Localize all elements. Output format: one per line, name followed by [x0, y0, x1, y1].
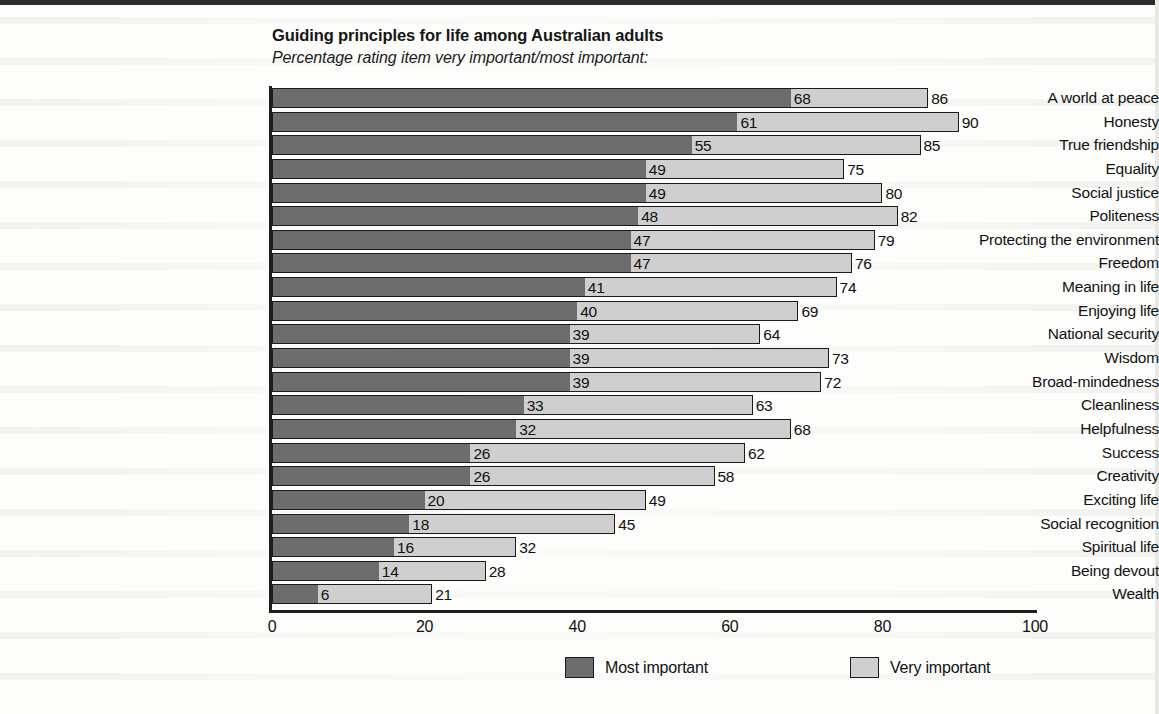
bar-value-total: 80 — [885, 184, 902, 203]
bar-value-most-important: 6 — [321, 585, 329, 604]
bar-value-most-important: 49 — [649, 184, 666, 203]
stacked-bar[interactable]: 4980 — [272, 183, 1035, 203]
bar-segment-most-important[interactable] — [272, 324, 570, 344]
bar-segment-most-important[interactable] — [272, 419, 516, 439]
bar-segment-most-important[interactable] — [272, 490, 425, 510]
bar-segment-most-important[interactable] — [272, 466, 470, 486]
chart-row: Creativity2658 — [0, 466, 1159, 490]
stacked-bar[interactable]: 3363 — [272, 395, 1035, 415]
bar-segment-most-important[interactable] — [272, 159, 646, 179]
bar-segment-most-important[interactable] — [272, 584, 318, 604]
stacked-bar[interactable]: 1428 — [272, 561, 1035, 581]
stacked-bar[interactable]: 4776 — [272, 253, 1035, 273]
legend-label: Most important — [605, 659, 708, 677]
bar-segment-most-important[interactable] — [272, 301, 577, 321]
bar-value-total: 86 — [931, 89, 948, 108]
bar-value-total: 28 — [489, 562, 506, 581]
stacked-bar[interactable]: 4174 — [272, 277, 1035, 297]
bar-value-most-important: 68 — [794, 89, 811, 108]
stacked-bar[interactable]: 6190 — [272, 112, 1035, 132]
stacked-bar[interactable]: 621 — [272, 584, 1035, 604]
chart-row: Meaning in life4174 — [0, 277, 1159, 301]
x-axis-tick-label: 0 — [268, 618, 277, 636]
stacked-bar[interactable]: 3268 — [272, 419, 1035, 439]
stacked-bar[interactable]: 4975 — [272, 159, 1035, 179]
bar-segment-most-important[interactable] — [272, 88, 791, 108]
chart-row: A world at peace6886 — [0, 88, 1159, 112]
bar-value-total: 73 — [832, 349, 849, 368]
bar-value-total: 76 — [855, 254, 872, 273]
legend-swatch-most-important — [565, 657, 594, 678]
bar-segment-most-important[interactable] — [272, 277, 585, 297]
bar-segment-most-important[interactable] — [272, 372, 570, 392]
bar-value-most-important: 39 — [573, 349, 590, 368]
bar-value-most-important: 26 — [473, 467, 490, 486]
chart-row: National security3964 — [0, 324, 1159, 348]
stacked-bar[interactable]: 4069 — [272, 301, 1035, 321]
chart-row: Equality4975 — [0, 159, 1159, 183]
chart-row: Social justice4980 — [0, 183, 1159, 207]
bar-segment-most-important[interactable] — [272, 395, 524, 415]
x-axis-tick-label: 60 — [721, 618, 738, 636]
chart-row: Helpfulness3268 — [0, 419, 1159, 443]
stacked-bar[interactable]: 4882 — [272, 206, 1035, 226]
chart-row: Politeness4882 — [0, 206, 1159, 230]
bar-value-total: 32 — [519, 538, 536, 557]
bar-segment-most-important[interactable] — [272, 206, 638, 226]
legend-item[interactable]: Most important — [565, 657, 708, 678]
legend-item[interactable]: Very important — [850, 657, 990, 678]
bar-segment-most-important[interactable] — [272, 253, 631, 273]
stacked-bar[interactable]: 6886 — [272, 88, 1035, 108]
chart-legend: Most importantVery important — [0, 657, 1159, 687]
bar-value-total: 49 — [649, 491, 666, 510]
bar-value-total: 63 — [756, 396, 773, 415]
bar-segment-most-important[interactable] — [272, 561, 379, 581]
chart-row: Wisdom3973 — [0, 348, 1159, 372]
bar-value-most-important: 48 — [641, 207, 658, 226]
bar-segment-most-important[interactable] — [272, 514, 409, 534]
bar-value-most-important: 14 — [382, 562, 399, 581]
x-axis-tick-label: 80 — [874, 618, 891, 636]
bar-segment-most-important[interactable] — [272, 443, 470, 463]
bar-segment-most-important[interactable] — [272, 537, 394, 557]
chart-plot-area: A world at peace6886Honesty6190True frie… — [0, 0, 1159, 714]
chart-row: Protecting the environment4779 — [0, 230, 1159, 254]
chart-row: True friendship5585 — [0, 135, 1159, 159]
stacked-bar[interactable]: 3972 — [272, 372, 1035, 392]
bar-value-most-important: 39 — [573, 373, 590, 392]
stacked-bar[interactable]: 2049 — [272, 490, 1035, 510]
bar-value-total: 79 — [878, 231, 895, 250]
stacked-bar[interactable]: 3964 — [272, 324, 1035, 344]
x-axis-tick-label: 20 — [416, 618, 433, 636]
stacked-bar[interactable]: 5585 — [272, 135, 1035, 155]
bar-value-total: 85 — [924, 136, 941, 155]
bar-value-most-important: 61 — [740, 113, 757, 132]
stacked-bar[interactable]: 1632 — [272, 537, 1035, 557]
stacked-bar[interactable]: 3973 — [272, 348, 1035, 368]
bar-value-most-important: 40 — [580, 302, 597, 321]
chart-row: Social recognition1845 — [0, 514, 1159, 538]
bar-segment-most-important[interactable] — [272, 348, 570, 368]
chart-row: Wealth621 — [0, 584, 1159, 608]
bar-segment-most-important[interactable] — [272, 230, 631, 250]
chart-row: Freedom4776 — [0, 253, 1159, 277]
bar-value-total: 68 — [794, 420, 811, 439]
stacked-bar[interactable]: 2662 — [272, 443, 1035, 463]
bar-value-total: 74 — [840, 278, 857, 297]
stacked-bar[interactable]: 4779 — [272, 230, 1035, 250]
bar-value-most-important: 32 — [519, 420, 536, 439]
bar-value-total: 82 — [901, 207, 918, 226]
stacked-bar[interactable]: 2658 — [272, 466, 1035, 486]
bar-segment-most-important[interactable] — [272, 112, 737, 132]
bar-value-total: 69 — [801, 302, 818, 321]
bar-value-most-important: 49 — [649, 160, 666, 179]
bar-value-most-important: 20 — [428, 491, 445, 510]
bar-segment-most-important[interactable] — [272, 183, 646, 203]
bar-value-most-important: 26 — [473, 444, 490, 463]
bar-value-most-important: 47 — [634, 254, 651, 273]
bar-value-most-important: 33 — [527, 396, 544, 415]
bar-value-total: 21 — [435, 585, 452, 604]
bar-segment-most-important[interactable] — [272, 135, 692, 155]
stacked-bar[interactable]: 1845 — [272, 514, 1035, 534]
bar-value-total: 90 — [962, 113, 979, 132]
